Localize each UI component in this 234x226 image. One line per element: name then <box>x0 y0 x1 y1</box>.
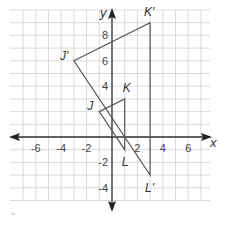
x-tick-label: 4 <box>160 142 166 154</box>
vertex-label: J <box>86 99 94 113</box>
vertex-label: L <box>122 155 129 169</box>
coordinate-plane-diagram: x y -6-4-2246 864-2-4 JKLJ'K'L' <box>0 0 234 226</box>
y-tick-label: 4 <box>102 80 108 92</box>
vertex-label: J' <box>59 49 69 63</box>
axes: x y <box>9 5 217 212</box>
x-tick-labels: -6-4-2246 <box>31 142 191 154</box>
coordinate-plane-svg: x y -6-4-2246 864-2-4 JKLJ'K'L' <box>0 0 234 226</box>
y-tick-label: 8 <box>102 29 108 41</box>
y-tick-label: -2 <box>98 156 108 168</box>
y-tick-label: -4 <box>98 182 108 194</box>
x-tick-label: -6 <box>31 142 41 154</box>
x-tick-label: -4 <box>56 142 66 154</box>
x-tick-label: 6 <box>185 142 191 154</box>
vertex-label: K <box>123 81 132 95</box>
y-axis-label: y <box>99 5 108 20</box>
vertex-label: K' <box>144 5 155 19</box>
x-tick-label: -2 <box>82 142 92 154</box>
grid-lines <box>10 10 210 201</box>
vertex-label: L' <box>145 181 155 195</box>
y-tick-label: 6 <box>102 55 108 67</box>
x-axis-label: x <box>209 135 217 150</box>
